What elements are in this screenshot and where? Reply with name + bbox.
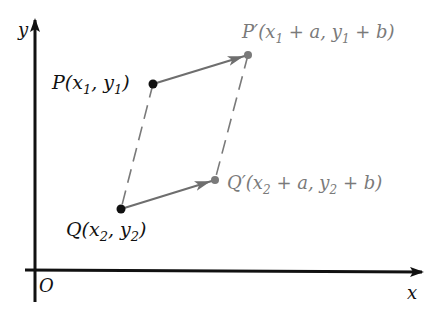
x-axis: [25, 270, 422, 272]
dashed-segment-pq-prime: [215, 55, 248, 180]
point-q-label: Q(x2, y2): [66, 218, 147, 244]
point-p-prime-label: P′(x1 + a, y1 + b): [241, 21, 395, 46]
point-p-prime: [244, 51, 252, 59]
diagram-canvas: y x O P(x1, y1) Q(x2, y2) P′(x1 + a, y1 …: [0, 0, 436, 318]
point-q-prime-label: Q′(x2 + a, y2 + b): [227, 172, 382, 197]
dashed-segment-pq: [121, 84, 153, 209]
point-q-prime: [211, 176, 219, 184]
origin-label: O: [39, 275, 54, 296]
point-p: [149, 80, 158, 89]
point-p-label: P(x1, y1): [51, 71, 130, 97]
x-axis-label: x: [407, 282, 417, 303]
y-axis-label: y: [17, 19, 29, 40]
vector-p-to-p-prime: [153, 55, 248, 84]
translation-diagram: y x O P(x1, y1) Q(x2, y2) P′(x1 + a, y1 …: [0, 0, 436, 318]
vector-q-to-q-prime: [121, 180, 215, 209]
point-q: [117, 205, 126, 214]
